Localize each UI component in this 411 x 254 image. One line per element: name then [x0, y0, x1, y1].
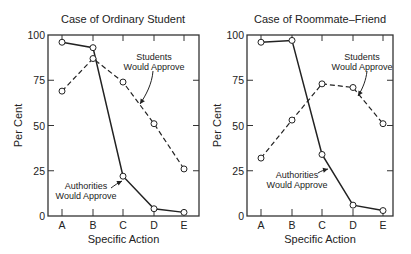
data-point-marker [350, 84, 356, 90]
x-tick-label: C [318, 219, 326, 231]
annotation-arrow [140, 71, 153, 104]
data-point-marker [90, 56, 96, 62]
annotation-text: Students [344, 52, 380, 62]
data-point-marker [90, 45, 96, 51]
x-tick-label: D [150, 219, 158, 231]
arrowhead-icon [323, 168, 328, 173]
annotation-authorities: AuthoritiesWould Approve [267, 168, 328, 190]
x-tick-label: A [257, 219, 264, 231]
y-tick-label: 100 [226, 29, 244, 41]
x-tick-label: D [349, 219, 357, 231]
annotation-students: StudentsWould Approve [124, 52, 185, 104]
x-tick-label: E [180, 219, 187, 231]
annotation-students: StudentsWould Approve [332, 52, 393, 96]
annotation-text: Would Approve [267, 180, 328, 190]
data-point-marker [350, 202, 356, 208]
y-tick-label: 0 [39, 210, 45, 222]
chart-ordinary-student: Case of Ordinary Student0255075100ABCDES… [12, 13, 199, 245]
data-point-marker [289, 117, 295, 123]
x-tick-label: C [119, 219, 127, 231]
data-point-marker [59, 39, 65, 45]
data-point-marker [181, 166, 187, 172]
figure: Case of Ordinary Student0255075100ABCDES… [0, 0, 411, 254]
y-tick-label: 25 [33, 165, 45, 177]
annotation-text: Authorities [276, 170, 319, 180]
series-students [59, 56, 187, 172]
data-point-marker [120, 173, 126, 179]
x-axis-title: Specific Action [88, 233, 160, 245]
data-point-marker [380, 121, 386, 127]
data-point-marker [258, 39, 264, 45]
y-axis-title: Per Cent [211, 104, 223, 147]
y-tick-label: 50 [232, 120, 244, 132]
data-point-marker [181, 209, 187, 215]
data-point-marker [120, 79, 126, 85]
annotation-text: Would Approve [124, 62, 185, 72]
data-point-marker [151, 121, 157, 127]
x-tick-label: A [58, 219, 65, 231]
y-tick-label: 75 [33, 74, 45, 86]
annotation-text: Students [136, 52, 172, 62]
data-point-marker [59, 88, 65, 94]
x-tick-label: B [89, 219, 96, 231]
y-tick-label: 25 [232, 165, 244, 177]
x-axis-title: Specific Action [284, 233, 356, 245]
x-tick-label: E [379, 219, 386, 231]
y-axis-title: Per Cent [12, 104, 24, 147]
chart-title: Case of Ordinary Student [61, 13, 185, 25]
data-point-marker [289, 37, 295, 43]
series-line [261, 84, 383, 158]
y-tick-label: 50 [33, 120, 45, 132]
y-tick-label: 75 [232, 74, 244, 86]
annotation-authorities: AuthoritiesWould Approve [56, 181, 122, 201]
annotation-text: Authorities [65, 181, 108, 191]
x-tick-label: B [288, 219, 295, 231]
data-point-marker [380, 208, 386, 214]
series-line [62, 59, 184, 169]
chart-title: Case of Roommate–Friend [254, 13, 386, 25]
annotation-text: Would Approve [332, 62, 393, 72]
data-point-marker [319, 81, 325, 87]
annotation-text: Would Approve [56, 191, 117, 201]
y-tick-label: 0 [238, 210, 244, 222]
data-point-marker [151, 206, 157, 212]
data-point-marker [258, 155, 264, 161]
chart-roommate-friend: Case of Roommate–Friend0255075100ABCDESp… [211, 13, 393, 245]
y-tick-label: 100 [27, 29, 45, 41]
data-point-marker [319, 151, 325, 157]
series-students [258, 81, 386, 161]
